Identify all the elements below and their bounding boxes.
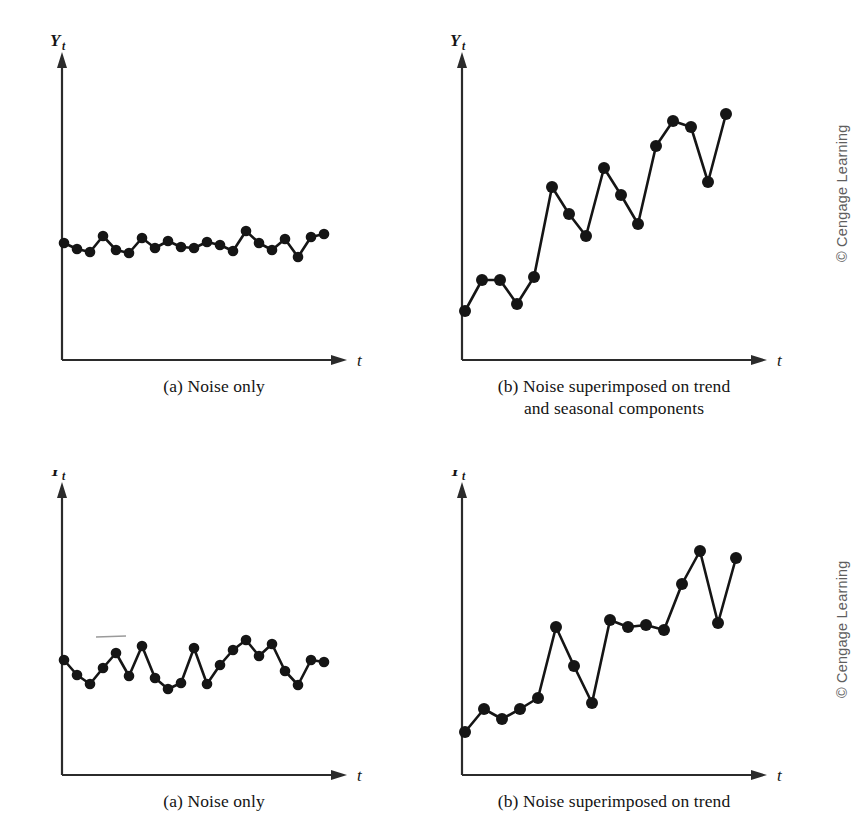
credit-bottom: © Cengage Learning <box>834 560 850 698</box>
caption-top-right: (b) Noise superimposed on trend and seas… <box>424 375 804 420</box>
x-axis-arrowhead <box>331 355 347 365</box>
series-markers <box>459 545 742 738</box>
y-axis-title-text: Y <box>50 31 62 50</box>
caption-line: (a) Noise only <box>24 790 404 812</box>
y-axis-title-subscript: t <box>462 40 466 52</box>
caption-line: (a) Noise only <box>24 375 404 397</box>
caption-line: (b) Noise superimposed on trend <box>424 790 804 812</box>
series-top-right <box>459 108 732 317</box>
x-axis-title-text: t <box>777 766 783 785</box>
y-axis-title-top-right: Y t <box>450 31 466 52</box>
x-axis-title-text: t <box>357 351 363 370</box>
chart-svg-top-right: Y t t <box>424 30 804 375</box>
series-polyline <box>465 551 736 732</box>
y-axis-title-bottom-right: Y t <box>450 470 466 482</box>
stray-pencil-mark <box>96 636 126 637</box>
series-bottom-left <box>59 635 330 695</box>
y-axis-title-text: Y <box>450 470 462 480</box>
y-axis-title-top-left: Y t <box>50 31 66 52</box>
y-axis-title-subscript: t <box>62 470 66 482</box>
caption-top-left: (a) Noise only <box>24 375 404 397</box>
caption-line: (b) Noise superimposed on trend <box>424 375 804 397</box>
panel-top-left: Y t t <box>24 30 404 397</box>
y-axis-arrowhead <box>57 482 67 498</box>
plot-top-left: Y t t <box>24 30 404 375</box>
y-axis-title-text: Y <box>50 470 62 480</box>
x-axis-title-text: t <box>357 766 363 785</box>
series-bottom-right <box>459 545 742 738</box>
chart-svg-bottom-right: Y t t <box>424 470 804 790</box>
credit-top: © Cengage Learning <box>834 124 850 262</box>
y-axis-arrowhead <box>457 52 467 68</box>
caption-line: and seasonal components <box>424 397 804 419</box>
chart-svg-bottom-left: Y t t <box>24 470 404 790</box>
x-axis-arrowhead <box>751 770 767 780</box>
y-axis-arrowhead <box>57 52 67 68</box>
x-axis-title-text: t <box>777 351 783 370</box>
chart-svg-top-left: Y t t <box>24 30 404 375</box>
y-axis-arrowhead <box>457 482 467 498</box>
axes-bottom-left <box>57 482 347 780</box>
y-axis-title-subscript: t <box>462 470 466 482</box>
plot-top-right: Y t t <box>424 30 804 375</box>
panel-top-right: Y t t <box>424 30 804 420</box>
axes-bottom-right <box>457 482 767 780</box>
panel-bottom-left: Y t t <box>24 470 404 812</box>
plot-bottom-left: Y t t <box>24 470 404 790</box>
figure-grid: Y t t <box>0 0 854 817</box>
x-axis-arrowhead <box>751 355 767 365</box>
y-axis-title-subscript: t <box>62 40 66 52</box>
panel-bottom-right: Y t t <box>424 470 804 812</box>
caption-bottom-left: (a) Noise only <box>24 790 404 812</box>
axes-top-left <box>57 52 347 365</box>
caption-bottom-right: (b) Noise superimposed on trend <box>424 790 804 812</box>
y-axis-title-bottom-left: Y t <box>50 470 66 482</box>
series-markers <box>59 635 330 695</box>
series-markers <box>459 108 732 317</box>
y-axis-title-text: Y <box>450 31 462 50</box>
x-axis-arrowhead <box>331 770 347 780</box>
plot-bottom-right: Y t t <box>424 470 804 790</box>
series-top-left <box>59 226 330 263</box>
axes-top-right <box>457 52 767 365</box>
